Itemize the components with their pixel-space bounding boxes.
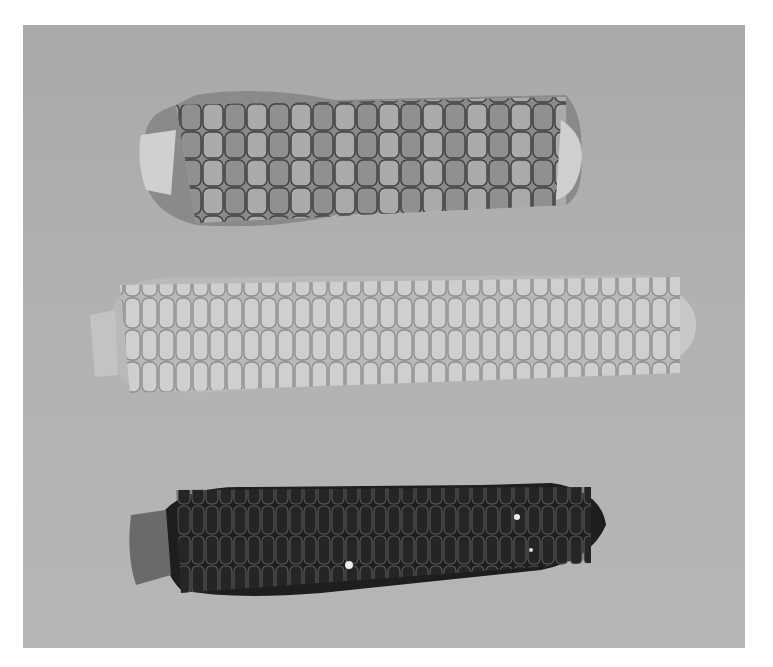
photo-background xyxy=(23,25,745,648)
middle-corn-cob xyxy=(90,265,700,405)
bottom-corn-cob xyxy=(121,475,621,605)
top-corn-cob xyxy=(136,75,586,240)
